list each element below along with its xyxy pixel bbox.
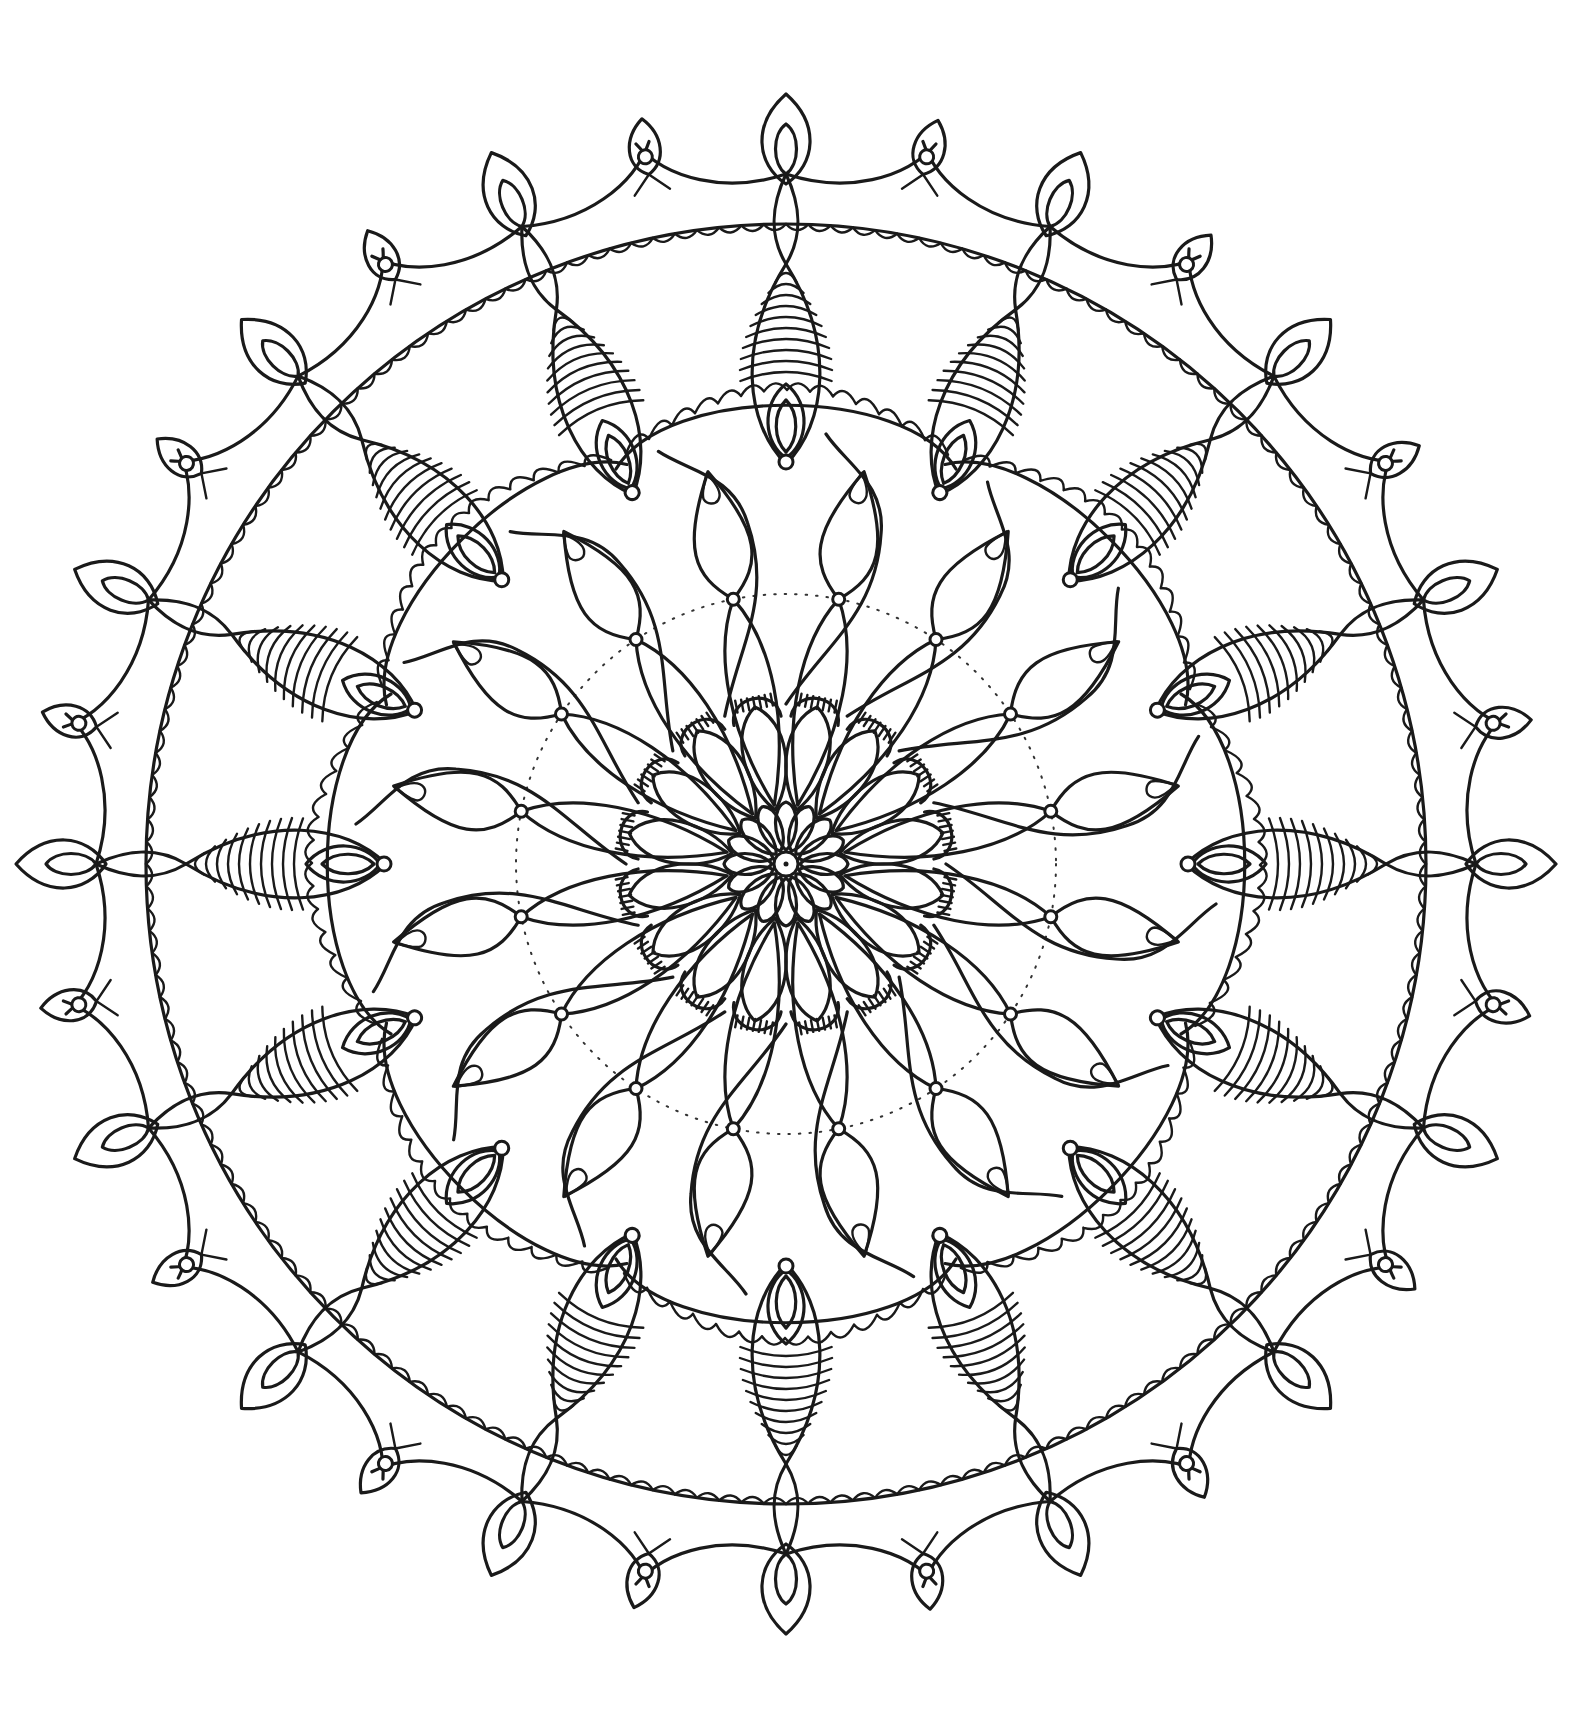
flame-finial	[1024, 143, 1103, 245]
eye-finial	[38, 980, 118, 1030]
flame-finial	[762, 1544, 810, 1634]
striped-arm	[266, 1111, 540, 1385]
eye-finial	[145, 1230, 227, 1301]
eye-finial	[1454, 980, 1534, 1030]
flame-finial	[1466, 840, 1556, 888]
striped-arm	[740, 174, 832, 469]
eye-finial	[349, 1424, 420, 1506]
flame-finial	[1250, 1328, 1348, 1426]
striped-arm	[895, 209, 1093, 517]
mandala-root	[16, 94, 1556, 1634]
flame-finial	[762, 94, 810, 184]
center-point	[784, 862, 789, 867]
mandala-artwork	[0, 0, 1580, 1716]
flame-finial	[469, 1483, 548, 1585]
eye-finial	[902, 1532, 952, 1612]
flame-finial	[65, 1102, 167, 1181]
striped-arm	[131, 557, 439, 755]
eye-finial	[1152, 223, 1223, 305]
striped-arm	[1133, 973, 1441, 1171]
flame-finial	[1024, 1483, 1103, 1585]
striped-arm	[131, 973, 439, 1171]
flame-finial	[225, 1328, 323, 1426]
eye-finial	[38, 698, 118, 748]
striped-arm	[1133, 557, 1441, 755]
striped-arm	[479, 209, 677, 517]
eye-finial	[902, 116, 952, 196]
eye-finial	[1346, 1230, 1428, 1301]
striped-arm	[1181, 818, 1476, 910]
eye-finial	[1346, 427, 1428, 498]
striped-arm	[740, 1259, 832, 1554]
eye-finial	[349, 223, 420, 305]
eye-finial	[1152, 1424, 1223, 1506]
flame-finial	[1405, 1102, 1507, 1181]
eye-finial	[620, 1532, 670, 1612]
flame-finial	[225, 303, 323, 401]
eye-finial	[145, 427, 227, 498]
flame-finial	[1405, 547, 1507, 626]
striped-arm	[266, 344, 540, 618]
flame-finial	[65, 547, 167, 626]
eye-finial	[620, 116, 670, 196]
eye-finial	[1454, 698, 1534, 748]
flame-finial	[469, 143, 548, 245]
flame-finial	[16, 840, 106, 888]
striped-arm	[1033, 1111, 1307, 1385]
striped-arm	[1033, 344, 1307, 618]
striped-arm	[479, 1211, 677, 1519]
striped-arm	[895, 1211, 1093, 1519]
flame-finial	[1250, 303, 1348, 401]
striped-arm	[96, 818, 391, 910]
